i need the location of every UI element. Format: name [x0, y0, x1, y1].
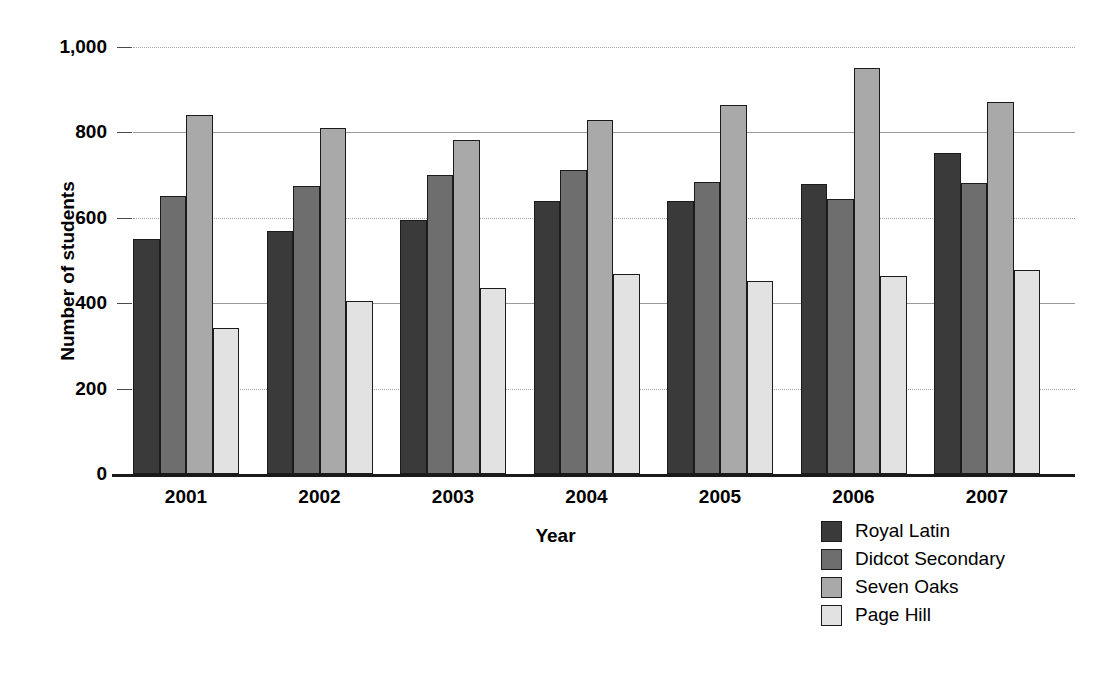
bar	[133, 239, 160, 474]
legend-swatch-icon	[821, 577, 842, 598]
x-axis-tick-label: 2005	[699, 486, 741, 508]
bar	[801, 184, 828, 474]
gridline	[133, 47, 1075, 48]
bar	[747, 281, 774, 474]
bar	[480, 288, 507, 474]
bar	[1014, 270, 1041, 474]
bar	[453, 140, 480, 474]
bar	[400, 220, 427, 474]
bar	[613, 274, 640, 474]
bar	[854, 68, 881, 475]
bar	[293, 186, 320, 474]
legend-label: Page Hill	[855, 604, 931, 626]
bar	[160, 196, 187, 474]
x-axis-tick-label: 2001	[165, 486, 207, 508]
legend-item: Royal Latin	[821, 517, 1005, 545]
x-axis-tick-label: 2006	[832, 486, 874, 508]
legend-item: Seven Oaks	[821, 573, 1005, 601]
bar	[667, 201, 694, 474]
y-axis-title: Number of students	[57, 141, 79, 401]
x-axis-tick-label: 2002	[298, 486, 340, 508]
y-axis-tick	[117, 218, 132, 219]
legend-swatch-icon	[821, 549, 842, 570]
y-axis-tick-label: 1,000	[59, 36, 107, 58]
legend-label: Royal Latin	[855, 520, 950, 542]
legend-swatch-icon	[821, 521, 842, 542]
legend-swatch-icon	[821, 605, 842, 626]
bar	[934, 153, 961, 474]
y-axis-tick	[117, 47, 132, 48]
legend-item: Page Hill	[821, 601, 1005, 629]
x-axis-tick-label: 2004	[565, 486, 607, 508]
x-axis-tick-label: 2003	[432, 486, 474, 508]
x-axis-tick-label: 2007	[966, 486, 1008, 508]
legend: Royal LatinDidcot SecondarySeven OaksPag…	[821, 517, 1005, 629]
bar	[961, 183, 988, 474]
legend-item: Didcot Secondary	[821, 545, 1005, 573]
legend-label: Seven Oaks	[855, 576, 959, 598]
bar-chart: Number of students 02004006008001,000 20…	[0, 0, 1111, 673]
bar	[213, 328, 240, 474]
bar	[560, 170, 587, 474]
bar	[427, 175, 454, 474]
bar	[346, 301, 373, 474]
bar	[186, 115, 213, 474]
y-axis-tick-label: 200	[75, 378, 107, 400]
bar	[694, 182, 721, 474]
y-axis-tick	[117, 303, 132, 304]
bar	[987, 102, 1014, 474]
y-axis-tick-label: 0	[96, 463, 107, 485]
bar	[534, 201, 561, 474]
y-axis-tick-label: 600	[75, 207, 107, 229]
bar	[720, 105, 747, 474]
bar	[587, 120, 614, 474]
bar	[267, 231, 294, 474]
y-axis-tick	[117, 132, 132, 133]
bar	[880, 276, 907, 474]
bar	[320, 128, 347, 474]
y-axis-tick-label: 400	[75, 292, 107, 314]
legend-label: Didcot Secondary	[855, 548, 1005, 570]
y-axis-tick-label: 800	[75, 121, 107, 143]
bar	[827, 199, 854, 474]
x-axis-line	[112, 474, 1075, 477]
plot-area	[133, 47, 1075, 474]
y-axis-tick	[117, 389, 132, 390]
